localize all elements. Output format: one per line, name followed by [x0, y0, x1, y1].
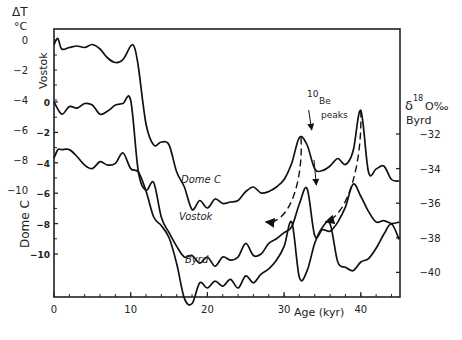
- right-axis-label-byrd: Byrd: [406, 114, 431, 127]
- series-label-dome-c: Dome C: [181, 174, 221, 185]
- x-tick-label: 20: [201, 304, 214, 315]
- right-axis-label-sup: 18: [413, 94, 423, 103]
- vostok-tick-label: −6: [13, 125, 28, 136]
- vostok-tick-label: −2: [13, 65, 28, 76]
- left-axis-label-celsius: °C: [14, 20, 28, 33]
- dome-c-tick-label: 0: [44, 98, 50, 108]
- chart-figure: 010203040 0−2−4−6−8−100−2−4−6−8−10−32−34…: [0, 0, 462, 340]
- series-label-vostok: Vostok: [179, 211, 214, 222]
- y-axes: 0−2−4−6−8−100−2−4−6−8−10−32−34−36−38−40: [7, 35, 441, 278]
- dome-c-tick-label: −6: [36, 189, 50, 199]
- x-tick-label: 30: [278, 304, 291, 315]
- vostok-tick-label: −8: [13, 155, 28, 166]
- vostok-axis-title: Vostok: [37, 52, 50, 89]
- byrd-tick-label: −40: [419, 267, 440, 278]
- labels: ΔT °C Vostok Dome C δ 18 O‰ Byrd Age (ky…: [12, 5, 449, 319]
- left-axis-label-delta-t: ΔT: [12, 5, 28, 19]
- dome-c-tick-label: −2: [36, 128, 50, 138]
- right-axis-label-delta: δ: [405, 98, 413, 113]
- be-peaks-text: peaks: [321, 110, 348, 120]
- series-label-byrd: Byrd: [185, 254, 209, 265]
- be-peaks-be: Be: [319, 96, 331, 106]
- be-pointer-dome-c: [309, 110, 312, 130]
- vostok-tick-label: −4: [13, 95, 28, 106]
- x-tick-label: 0: [51, 304, 57, 315]
- series-line-vostok: [54, 96, 399, 266]
- dome-c-tick-label: −10: [30, 250, 50, 260]
- dome-c-axis-title: Dome C: [18, 200, 32, 248]
- chart-svg: 010203040 0−2−4−6−8−100−2−4−6−8−10−32−34…: [0, 0, 462, 340]
- byrd-tick-label: −34: [419, 164, 440, 175]
- dome-c-tick-label: −4: [36, 159, 50, 169]
- x-tick-label: 40: [354, 304, 367, 315]
- vostok-tick-label: −10: [7, 185, 28, 196]
- be-peaks-sup: 10: [307, 89, 319, 99]
- data-curves: [54, 38, 399, 304]
- byrd-tick-label: −32: [419, 129, 440, 140]
- x-axis-title: Age (kyr): [294, 306, 344, 319]
- series-line-dome-c: [54, 38, 399, 209]
- byrd-tick-label: −38: [419, 233, 440, 244]
- x-tick-label: 10: [124, 304, 137, 315]
- byrd-tick-label: −36: [419, 198, 440, 209]
- vostok-tick-label: 0: [22, 35, 28, 46]
- dome-c-tick-label: −8: [36, 220, 50, 230]
- right-axis-label-o: O‰: [425, 100, 449, 113]
- be-pointer-vostok: [314, 160, 316, 185]
- series-line-byrd: [54, 149, 399, 305]
